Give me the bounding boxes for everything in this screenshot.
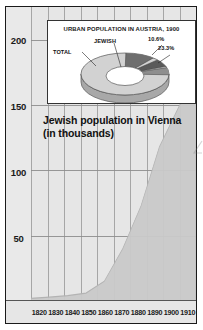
x-axis-tick-1910: 1910 [180, 308, 197, 317]
x-axis-tick-1860: 1860 [97, 308, 114, 317]
y-axis-tick-150: 150 [7, 101, 30, 112]
inset-pct-outer: 10.6% [148, 36, 164, 42]
y-axis-tick-100: 100 [7, 167, 30, 178]
inset-pct-inner: 23.3% [158, 45, 174, 51]
page-title-line2: (in thousands) [43, 127, 193, 140]
x-axis-tick-1850: 1850 [81, 308, 98, 317]
x-axis-tick-1820: 1820 [31, 308, 48, 317]
inset-title: URBAN POPULATION IN AUSTRIA, 1900 [48, 26, 195, 32]
x-axis-tick-1900: 1900 [163, 308, 180, 317]
x-axis-tick-1890: 1890 [147, 308, 164, 317]
figure-root: 200 150 100 50 1820 1830 1840 1850 1860 … [0, 0, 203, 330]
x-axis-tick-1880: 1880 [130, 308, 147, 317]
inset-label-jewish: JEWISH [94, 38, 116, 44]
inset-label-total: TOTAL [53, 49, 72, 55]
x-axis-tick-1870: 1870 [114, 308, 131, 317]
edge-mark-icon [193, 140, 203, 166]
x-axis-tick-1830: 1830 [48, 308, 65, 317]
y-axis-tick-50: 50 [7, 233, 30, 244]
inset-chart: URBAN POPULATION IN AUSTRIA, 1900 [47, 20, 196, 104]
y-axis-tick-200: 200 [7, 35, 30, 46]
x-axis-tick-1840: 1840 [64, 308, 81, 317]
x-axis-tick-labels: 1820 1830 1840 1850 1860 1870 1880 1890 … [31, 301, 196, 323]
page-title: Jewish population in Vienna (in thousand… [43, 114, 193, 140]
page-title-line1: Jewish population in Vienna [43, 114, 193, 127]
chart-frame: 200 150 100 50 1820 1830 1840 1850 1860 … [5, 6, 197, 324]
